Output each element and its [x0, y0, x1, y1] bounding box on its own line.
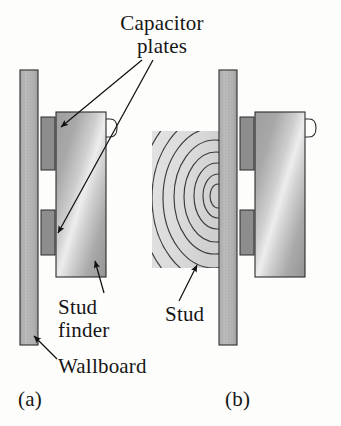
panel-a-capacitor-plate-upper [41, 117, 55, 170]
panel-a-wallboard [20, 70, 38, 345]
capacitor-plates-label: Capacitor plates [97, 12, 227, 57]
leader-stud [179, 265, 197, 301]
panel-b-wallboard [219, 70, 237, 345]
leader-wallboard [34, 336, 57, 359]
panel-a-caption: (a) [18, 388, 42, 411]
stud-label: Stud [165, 303, 204, 326]
panel-b-stud-finder-body [255, 112, 305, 277]
panel-b-caption: (b) [225, 388, 250, 411]
panel-b-capacitor-plate-upper [240, 117, 254, 170]
figure-artwork [0, 0, 341, 426]
panel-a-capacitor-plate-lower [41, 210, 55, 255]
panel-b-capacitor-plate-lower [240, 210, 254, 255]
panel-a-stud-finder-body [56, 112, 106, 277]
stud-finder-figure: Capacitor plates Stud finder Wallboard S… [0, 0, 341, 426]
wallboard-label: Wallboard [58, 355, 147, 378]
stud-finder-label: Stud finder [58, 296, 168, 341]
